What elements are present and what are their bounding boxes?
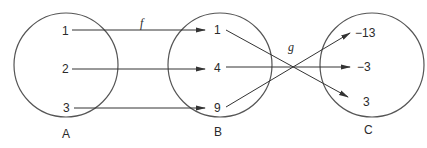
arrow-g-1-to-3 — [226, 30, 348, 97]
set-a-element-3: 3 — [63, 101, 70, 115]
function-g-label: g — [288, 40, 294, 54]
set-c-element-3: 3 — [363, 95, 370, 109]
set-c-element-neg3: −3 — [357, 60, 371, 74]
set-c-element-neg13: −13 — [355, 26, 376, 40]
set-b-element-9: 9 — [214, 101, 221, 115]
set-a-element-2: 2 — [62, 62, 69, 76]
set-b-label: B — [214, 125, 222, 139]
function-mapping-diagram: f g 1 2 3 1 4 9 −13 −3 3 A B C — [0, 0, 427, 148]
set-c-label: C — [364, 123, 373, 137]
set-b-element-1: 1 — [214, 23, 221, 37]
set-a-label: A — [62, 127, 70, 141]
set-a-element-1: 1 — [62, 24, 69, 38]
set-b-element-4: 4 — [214, 61, 221, 75]
function-f-label: f — [140, 16, 145, 30]
